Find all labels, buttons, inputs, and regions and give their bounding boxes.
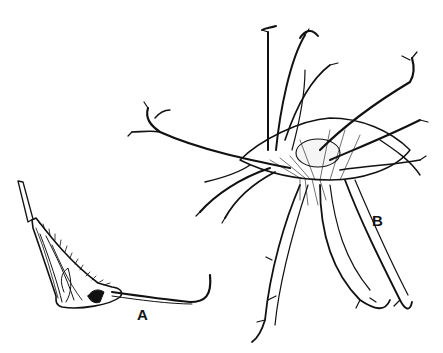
figure-b-fruit [128, 26, 428, 342]
figure-label-b: B [372, 212, 383, 229]
botanical-illustration [0, 0, 443, 353]
figure-a-fruit [18, 181, 210, 308]
figure-label-a: A [137, 306, 148, 323]
